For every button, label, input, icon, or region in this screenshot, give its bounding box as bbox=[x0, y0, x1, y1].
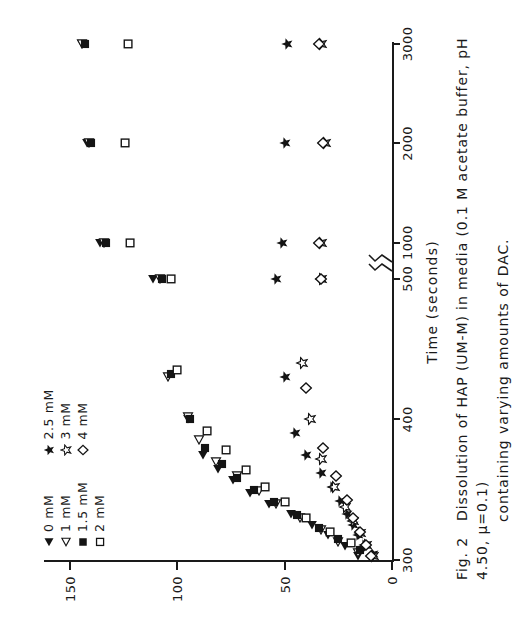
data-point-filled-square bbox=[198, 441, 211, 454]
data-point-open-diamond bbox=[330, 469, 343, 482]
data-point-open-diamond bbox=[317, 441, 330, 454]
y-tick-label: 100 bbox=[170, 576, 185, 602]
x-tick-label: 2000 bbox=[400, 126, 415, 161]
y-tick bbox=[176, 562, 178, 570]
data-point-open-square bbox=[123, 236, 136, 249]
filled-triangle-left-icon bbox=[42, 532, 56, 548]
x-tick bbox=[392, 242, 400, 244]
data-point-open-square bbox=[171, 364, 184, 377]
y-tick-label: 150 bbox=[62, 576, 77, 602]
x-tick bbox=[392, 142, 400, 144]
figure-label: Fig. 2 bbox=[454, 537, 470, 580]
legend-label: 1 mM bbox=[58, 495, 73, 532]
data-point-open-square bbox=[119, 137, 132, 150]
x-tick-label: 3000 bbox=[400, 27, 415, 62]
legend-entry: 0 mM bbox=[40, 482, 57, 548]
data-point-open-square bbox=[239, 464, 252, 477]
x-tick-label: 400 bbox=[400, 406, 415, 432]
axis-break-icon bbox=[368, 247, 394, 277]
legend-entry: 2.5 mM bbox=[40, 389, 57, 455]
data-point-open-diamond bbox=[312, 236, 325, 249]
data-point-open-diamond bbox=[317, 137, 330, 150]
x-tick bbox=[392, 559, 400, 561]
data-point-open-square bbox=[164, 272, 177, 285]
open-square-icon bbox=[93, 532, 107, 548]
data-point-filled-star bbox=[289, 427, 302, 440]
legend-label: 1.5 mM bbox=[75, 482, 90, 532]
legend-label: 3 mM bbox=[58, 402, 73, 439]
data-point-filled-square bbox=[216, 458, 229, 471]
data-point-open-diamond bbox=[360, 538, 373, 551]
y-tick bbox=[284, 562, 286, 570]
data-point-open-diamond bbox=[312, 38, 325, 51]
data-point-open-star bbox=[315, 452, 328, 465]
legend-label: 2 mM bbox=[92, 495, 107, 532]
data-point-filled-star bbox=[276, 236, 289, 249]
data-point-filled-star bbox=[300, 448, 313, 461]
data-point-filled-square bbox=[85, 137, 98, 150]
legend-entry: 2 mM bbox=[91, 482, 108, 548]
data-point-open-square bbox=[323, 525, 336, 538]
legend-label: 2.5 mM bbox=[41, 389, 56, 439]
data-point-open-square bbox=[278, 496, 291, 509]
x-tick bbox=[392, 278, 400, 280]
data-point-open-diamond bbox=[315, 272, 328, 285]
data-point-open-square bbox=[220, 444, 233, 457]
x-tick-label: 500 bbox=[400, 266, 415, 292]
data-point-open-square bbox=[201, 424, 214, 437]
open-star-icon bbox=[59, 440, 73, 456]
data-point-open-diamond bbox=[340, 493, 353, 506]
x-tick-label: 1000 bbox=[400, 225, 415, 260]
x-axis-line bbox=[392, 42, 394, 562]
data-point-filled-square bbox=[100, 236, 113, 249]
y-axis-line bbox=[44, 560, 394, 562]
data-point-open-star bbox=[304, 413, 317, 426]
caption-line-2: containing varying amounts of DAC. bbox=[493, 20, 513, 580]
x-tick bbox=[392, 418, 400, 420]
data-point-filled-square bbox=[183, 413, 196, 426]
legend-entry: 4 mM bbox=[74, 389, 91, 455]
legend-column: 2.5 mM3 mM4 mM bbox=[40, 389, 91, 455]
filled-star-icon bbox=[42, 440, 56, 456]
data-point-filled-star bbox=[278, 371, 291, 384]
data-point-filled-star bbox=[315, 466, 328, 479]
legend-label: 0 mM bbox=[41, 495, 56, 532]
y-tick-label: 50 bbox=[277, 576, 292, 593]
legend-label: 4 mM bbox=[75, 402, 90, 439]
open-triangle-left-icon bbox=[59, 532, 73, 548]
legend: 0 mM1 mM1.5 mM2 mM2.5 mM3 mM4 mM bbox=[40, 363, 108, 548]
figure-caption: Fig. 2 Dissolution of HAP (UM-M) in medi… bbox=[452, 20, 513, 580]
legend-entry: 1 mM bbox=[57, 482, 74, 548]
legend-column: 0 mM1 mM1.5 mM2 mM bbox=[40, 482, 108, 548]
data-point-open-diamond bbox=[364, 549, 377, 562]
y-tick bbox=[69, 562, 71, 570]
y-tick bbox=[391, 562, 393, 570]
data-point-open-diamond bbox=[300, 382, 313, 395]
x-axis-title: Time (seconds) bbox=[424, 42, 440, 562]
data-point-open-square bbox=[121, 38, 134, 51]
x-tick-label: 300 bbox=[400, 547, 415, 573]
data-point-open-star bbox=[327, 480, 340, 493]
legend-entry: 1.5 mM bbox=[74, 482, 91, 548]
y-tick-label: 0 bbox=[385, 576, 400, 585]
caption-line-1: Dissolution of HAP (UM-M) in media (0.1 … bbox=[454, 37, 490, 580]
data-point-filled-star bbox=[278, 137, 291, 150]
data-point-filled-square bbox=[78, 38, 91, 51]
data-point-filled-star bbox=[269, 272, 282, 285]
filled-square-icon bbox=[76, 532, 90, 548]
data-point-open-star bbox=[295, 357, 308, 370]
data-point-open-diamond bbox=[347, 511, 360, 524]
data-point-open-square bbox=[300, 511, 313, 524]
open-diamond-icon bbox=[76, 440, 90, 456]
data-point-filled-star bbox=[280, 38, 293, 51]
data-point-open-square bbox=[259, 480, 272, 493]
legend-entry: 3 mM bbox=[57, 389, 74, 455]
x-tick bbox=[392, 43, 400, 45]
data-point-open-diamond bbox=[353, 525, 366, 538]
